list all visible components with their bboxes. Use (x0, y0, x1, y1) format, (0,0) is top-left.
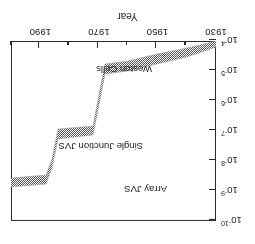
y-tick-1e-4 (209, 39, 216, 40)
y-tick-exponent: -8 (221, 160, 227, 167)
y-tick-mantissa: 10 (227, 65, 238, 76)
band-path (11, 41, 216, 187)
y-tick-exponent: -7 (221, 130, 227, 137)
x-tick-label-1990: 1990 (30, 27, 52, 38)
x-axis-title: Year (0, 11, 255, 22)
y-tick-mantissa: 10 (231, 215, 242, 226)
y-tick-mantissa: 10 (227, 185, 238, 196)
y-tick-exponent: -4 (221, 40, 227, 47)
y-tick-label-1e-6: 10-6 (221, 95, 249, 107)
annotation-single-junction-jvs: Single Junction JVS (59, 141, 144, 152)
y-tick-label-1e-4: 10-4 (221, 35, 249, 47)
annotation-weston-cells: Weston Cells (96, 64, 152, 75)
x-tick-label-1970: 1970 (88, 27, 110, 38)
x-tick-label-1950: 1950 (147, 27, 169, 38)
y-tick-label-1e-9: 10-9 (221, 185, 249, 197)
y-tick-exponent: -5 (221, 70, 227, 77)
y-tick-mantissa: 10 (227, 125, 238, 136)
y-tick-exponent: -6 (221, 100, 227, 107)
y-tick-mantissa: 10 (227, 35, 238, 46)
y-tick-label-1e-8: 10-8 (221, 155, 249, 167)
y-tick-label-1e-5: 10-5 (221, 65, 249, 77)
y-tick-exponent: -9 (221, 190, 227, 197)
y-tick-label-1e-10: 10-10 (221, 215, 249, 227)
y-tick-mantissa: 10 (227, 155, 238, 166)
annotation-array-jvs: Array JVS (124, 184, 167, 195)
rotated-figure-container: Weston Cells Single Junction JVS Array J… (0, 0, 255, 244)
y-tick-exponent: -10 (221, 220, 231, 227)
chart-figure: Weston Cells Single Junction JVS Array J… (0, 0, 255, 244)
y-tick-label-1e-7: 10-7 (221, 125, 249, 137)
y-tick-mantissa: 10 (227, 95, 238, 106)
